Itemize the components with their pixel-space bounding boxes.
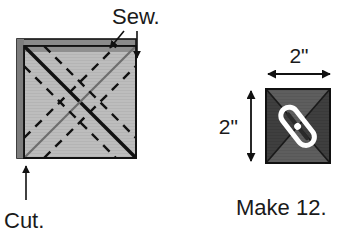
right-figure-group: 2" 2" Make 12. — [219, 44, 330, 220]
fabric-left-edge-band — [17, 39, 24, 158]
quilting-diagram: Sew. Cut. — [0, 0, 347, 236]
height-dimension-label: 2" — [219, 115, 238, 138]
cut-label: Cut. — [4, 208, 44, 233]
width-dimension-label: 2" — [289, 44, 308, 67]
left-figure-group: Sew. Cut. — [4, 4, 160, 233]
sew-label: Sew. — [112, 4, 160, 29]
diagram-canvas: Sew. Cut. — [0, 0, 347, 236]
make-caption: Make 12. — [236, 195, 327, 220]
